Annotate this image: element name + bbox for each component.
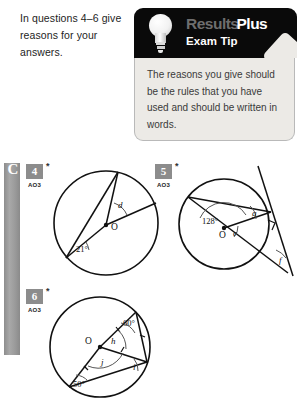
lightbulb-icon xyxy=(144,12,178,54)
angle-label-50: 50° xyxy=(73,379,85,389)
textbook-page: In questions 4–6 give reasons for your a… xyxy=(0,0,307,407)
question-6-ao: AO3 xyxy=(28,307,41,313)
angle-label-j: j xyxy=(100,357,104,367)
exam-tip-header: ResultsPlus Exam Tip xyxy=(134,8,297,58)
question-number-4: 4 xyxy=(26,164,43,179)
figure-question-5: 128° e g f O xyxy=(176,166,307,286)
exam-tip-text: The reasons you give should be the rules… xyxy=(135,58,294,133)
question-4-ao: AO3 xyxy=(28,182,41,188)
exam-tip-subtitle: Exam Tip xyxy=(186,35,238,47)
angle-label-d: d xyxy=(118,200,123,210)
exam-tip-box: ResultsPlus Exam Tip The reasons you giv… xyxy=(134,8,297,143)
angle-label-128: 128° xyxy=(202,216,218,226)
question-number-6: 6 xyxy=(26,289,43,304)
question-4-star: * xyxy=(46,161,50,171)
angle-label-g: g xyxy=(252,208,257,218)
grade-bar: C xyxy=(4,163,20,355)
brand-plus: Plus xyxy=(237,15,268,32)
intro-text: In questions 4–6 give reasons for your a… xyxy=(20,10,132,61)
question-number-5: 5 xyxy=(155,164,172,179)
brand-results: Results xyxy=(186,15,239,32)
centre-label-o-q6: O xyxy=(85,336,92,346)
angle-label-e: e xyxy=(233,228,237,238)
grade-label: C xyxy=(5,161,21,178)
exam-tip-body: The reasons you give should be the rules… xyxy=(134,58,295,141)
question-5-ao: AO3 xyxy=(157,182,170,188)
resultsplus-logo: ResultsPlus xyxy=(186,15,267,33)
centre-label-o-q4: O xyxy=(111,222,118,232)
angle-label-21: 21° xyxy=(76,244,88,254)
centre-label-o-q5: O xyxy=(219,230,226,240)
figure-question-6: 60° 50° h i j O xyxy=(48,292,168,404)
figure-question-4: 21° d O xyxy=(52,163,164,285)
angle-label-h: h xyxy=(111,336,116,346)
angle-label-f: f xyxy=(279,255,283,265)
angle-label-60: 60° xyxy=(123,318,135,328)
